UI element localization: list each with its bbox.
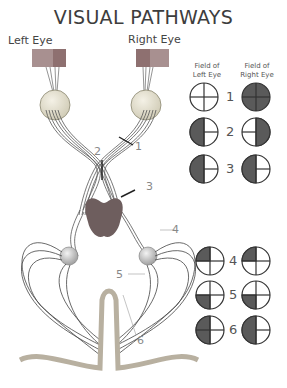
left-lgn: [60, 247, 78, 265]
row-number-6: 6: [229, 322, 237, 337]
row-number-4: 4: [229, 253, 237, 268]
visual-field-chart: [190, 83, 270, 344]
row-number-5: 5: [229, 287, 237, 302]
lesion-label-3: 3: [146, 180, 153, 193]
lesion-label-1: 1: [135, 140, 142, 153]
right-eye-stimulus: [136, 49, 169, 67]
field-1-left: [190, 83, 218, 111]
field-6-right: [242, 316, 270, 344]
row-number-3: 3: [226, 161, 234, 176]
field-3-left: [190, 155, 218, 183]
field-2-left: [190, 118, 218, 146]
light-rays: [46, 67, 153, 92]
label-leaders: [123, 230, 175, 335]
right-eyeball: [131, 90, 161, 120]
midbrain: [85, 198, 122, 237]
optic-nerves: [46, 110, 156, 215]
field-4-left: [196, 247, 224, 275]
field-5-left: [196, 281, 224, 309]
left-eyeball: [40, 90, 70, 120]
lesion-label-5: 5: [116, 268, 123, 281]
visual-pathway-diagram: [0, 0, 287, 388]
row-number-1: 1: [226, 89, 234, 104]
field-4-right: [242, 247, 270, 275]
field-5-right: [242, 281, 270, 309]
optic-radiations: [21, 243, 195, 355]
lesion-label-6: 6: [137, 334, 144, 347]
field-1-right: [242, 83, 270, 111]
field-2-right: [242, 118, 270, 146]
field-6-left: [196, 316, 224, 344]
left-eye-stimulus: [32, 49, 66, 67]
visual-cortex: [20, 291, 198, 368]
lesion-label-4: 4: [172, 223, 179, 236]
right-lgn: [139, 247, 157, 265]
row-number-2: 2: [226, 124, 234, 139]
field-3-right: [242, 155, 270, 183]
lesion-label-2: 2: [94, 145, 101, 158]
